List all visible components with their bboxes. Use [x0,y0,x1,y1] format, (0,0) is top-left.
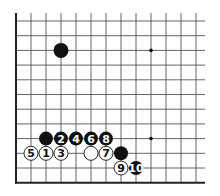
black-stone-8: 8 [99,132,113,146]
white-stone-3: 3 [54,146,68,160]
move-number: 3 [57,147,65,160]
move-number: 1 [42,147,50,160]
white-stone-5: 5 [24,146,38,160]
move-number: 6 [87,133,95,146]
black-stone [54,43,69,58]
stone-circle-icon [84,146,98,160]
move-number: 9 [117,162,125,175]
move-number: 4 [72,133,80,146]
stone-circle-icon [54,43,69,58]
move-number: 10 [128,162,144,175]
white-stone-9: 9 [114,161,128,175]
move-number: 2 [57,133,65,146]
white-stone-1: 1 [39,146,53,160]
star-point-icon [149,49,153,53]
black-stone-2: 2 [54,132,68,146]
move-number: 7 [102,147,110,160]
white-stone [84,146,98,160]
black-stone-10: 10 [128,161,144,175]
stone-circle-icon [114,146,128,160]
black-stone-6: 6 [84,132,98,146]
white-stone-7: 7 [99,146,113,160]
black-stone-4: 4 [69,132,83,146]
move-number: 8 [102,133,110,146]
black-stone [39,132,53,146]
star-point-icon [149,137,153,141]
black-stone [114,146,128,160]
move-number: 5 [27,147,35,160]
go-board: 24685137910 [0,0,220,196]
stone-circle-icon [39,132,53,146]
